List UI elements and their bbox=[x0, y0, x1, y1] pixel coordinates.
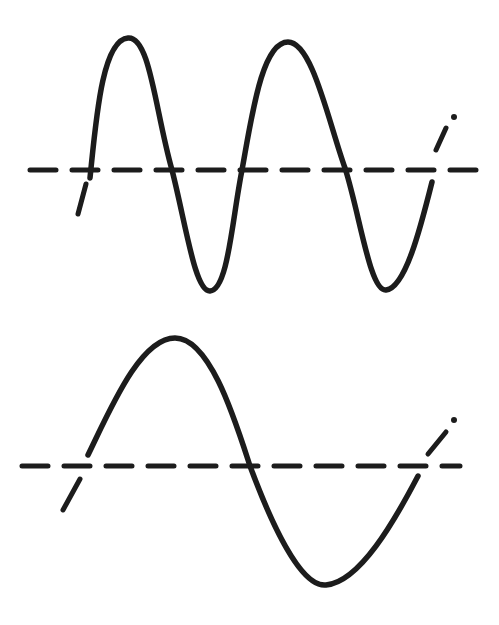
sine-wave-two-cycles bbox=[90, 38, 432, 291]
start-extension-tick bbox=[78, 184, 86, 214]
waveform-diagram bbox=[0, 0, 499, 625]
sine-wave-one-cycle bbox=[88, 338, 418, 585]
low-frequency-wave-panel bbox=[22, 338, 460, 585]
end-extension-tick bbox=[428, 432, 446, 454]
start-extension-tick bbox=[63, 479, 80, 510]
end-dot bbox=[451, 417, 457, 423]
high-frequency-wave-panel bbox=[30, 38, 482, 291]
end-extension-tick bbox=[436, 128, 446, 150]
end-dot bbox=[451, 114, 457, 120]
